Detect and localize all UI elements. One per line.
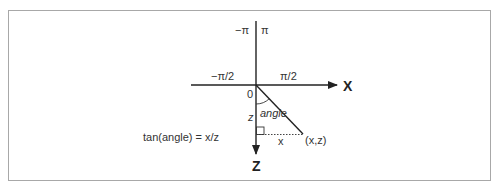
x-segment-label: x <box>278 135 284 147</box>
point-label: (x,z) <box>305 134 326 146</box>
label-pi-half: π/2 <box>280 70 297 82</box>
label-neg-pi-half: −π/2 <box>211 70 234 82</box>
angle-arc <box>256 99 270 105</box>
angle-label: angle <box>260 107 287 119</box>
x-axis-label: X <box>343 78 353 94</box>
label-origin: 0 <box>247 88 253 100</box>
z-segment-label: z <box>247 111 254 123</box>
label-neg-pi: −π <box>235 24 249 36</box>
label-pi: π <box>261 24 269 36</box>
z-axis-label: Z <box>252 158 261 174</box>
right-angle-marker <box>257 127 265 135</box>
coordinate-diagram: −π π −π/2 π/2 0 X Z angle z x (x,z) tan(… <box>0 0 501 189</box>
formula-label: tan(angle) = x/z <box>143 131 219 143</box>
